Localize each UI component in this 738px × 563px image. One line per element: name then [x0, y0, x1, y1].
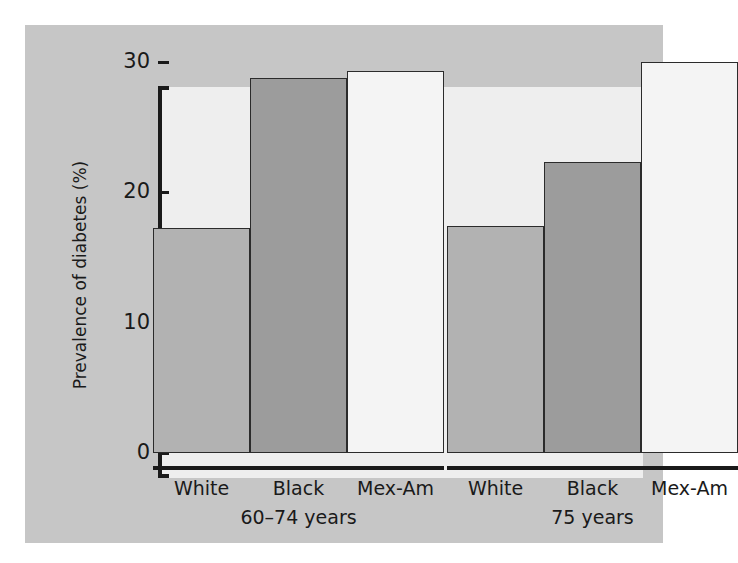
bar-black	[250, 78, 347, 453]
bar-black	[544, 162, 641, 453]
bar-white	[153, 228, 250, 453]
bar-mex-am	[641, 62, 738, 453]
chart-panel: 0102030 Prevalence of diabetes (%) White…	[25, 25, 663, 543]
y-axis-tick-label: 30	[90, 51, 150, 72]
group-title: 75 years	[447, 506, 738, 528]
y-axis-tick-label: 0	[90, 442, 150, 463]
y-axis-tick	[158, 191, 169, 194]
group-category-labels: WhiteBlackMex-Am	[447, 477, 738, 499]
category-label-mex-am: Mex-Am	[641, 477, 738, 499]
y-axis-top-cap	[158, 86, 169, 90]
group-category-labels: WhiteBlackMex-Am	[153, 477, 444, 499]
bar-mex-am	[347, 71, 444, 453]
category-label-mex-am: Mex-Am	[347, 477, 444, 499]
category-label-white: White	[153, 477, 250, 499]
category-label-black: Black	[250, 477, 347, 499]
bar-white	[447, 226, 544, 453]
group-underline	[153, 466, 444, 470]
y-axis-tick-label: 20	[90, 181, 150, 202]
group-title: 60–74 years	[153, 506, 444, 528]
category-label-black: Black	[544, 477, 641, 499]
group-underline	[447, 466, 738, 470]
category-label-white: White	[447, 477, 544, 499]
y-axis-tick	[158, 61, 169, 64]
y-axis-tick-label: 10	[90, 312, 150, 333]
y-axis-title: Prevalence of diabetes (%)	[70, 110, 90, 440]
